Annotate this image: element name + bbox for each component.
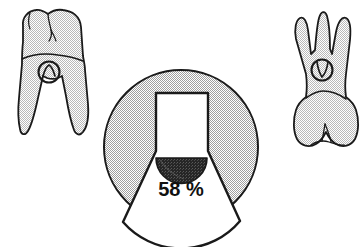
magnifier-group: 58 % (104, 70, 258, 247)
furcation-percent-label: 58 % (158, 178, 204, 200)
figure-root: 58 % (0, 0, 363, 247)
right-tooth-group (294, 12, 358, 146)
left-tooth-group (18, 10, 88, 135)
tooth-furcation-figure: 58 % (0, 0, 363, 247)
